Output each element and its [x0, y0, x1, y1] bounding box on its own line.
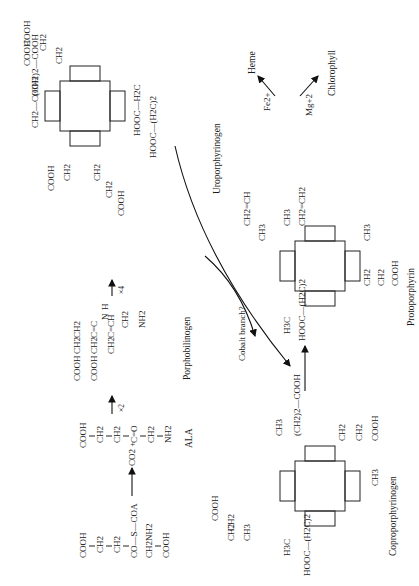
- svg-text:COOH: COOH: [78, 422, 88, 448]
- co2-label: CO2 +: [127, 442, 137, 466]
- svg-text:COOH: COOH: [390, 260, 400, 286]
- svg-text:CH2: CH2: [104, 181, 114, 198]
- succinyl-coa: COOH CH2 CH2 CO—S—COA CH2NH2 COOH: [78, 503, 171, 558]
- pathway-diagram: COOH CH2 CH2 CO—S—COA CH2NH2 COOH CO2 + …: [0, 0, 419, 586]
- svg-text:CH2: CH2: [95, 536, 105, 553]
- arrow-uro-to-copro: [175, 146, 290, 366]
- svg-text:CH2: CH2: [92, 164, 102, 181]
- svg-text:COOH: COOH: [22, 40, 32, 66]
- svg-text:COOH: COOH: [78, 532, 88, 558]
- svg-text:CH2: CH2: [112, 426, 122, 443]
- svg-text:CH2: CH2: [106, 337, 116, 354]
- svg-text:COOH: COOH: [370, 415, 380, 441]
- svg-text:COOH: COOH: [46, 165, 56, 191]
- svg-text:CH2: CH2: [95, 426, 105, 443]
- svg-text:NH2: NH2: [163, 426, 173, 444]
- coproporphyrinogen-name: Coproporphyrinogen: [388, 476, 398, 556]
- svg-text:CH2: CH2: [146, 426, 156, 443]
- cobalt-branch-label: Cobalt branch?: [237, 306, 247, 361]
- svg-text:CH2: CH2: [354, 424, 364, 441]
- svg-text:CH2: CH2: [72, 321, 82, 338]
- svg-text:HOOC—(H2C)2: HOOC—(H2C)2: [297, 279, 307, 341]
- svg-text:×2: ×2: [117, 404, 126, 412]
- svg-text:CH2: CH2: [89, 337, 99, 354]
- protoporphyrin: CH3 CH2=CH2 H3C HOOC—(H2C)2 CH2=CH CH3 C…: [242, 187, 416, 341]
- svg-text:CH2: CH2: [62, 164, 72, 181]
- svg-text:CO—S—COA: CO—S—COA: [129, 503, 139, 558]
- protoporphyrin-name: Protoporphyrin: [406, 268, 416, 326]
- svg-text:Mg+2: Mg+2: [304, 94, 314, 116]
- svg-text:CH2NH2: CH2NH2: [144, 523, 154, 558]
- coproporphyrinogen: CH3 (CH2)2—COOH H3C HOOC—(H2C)2 CH3 CH2 …: [210, 374, 398, 576]
- svg-text:CH3: CH3: [242, 523, 252, 541]
- ala-name: ALA: [184, 428, 194, 448]
- porphobilinogen: COOH COOH CH2 CH2 CH2 CH2 C=CH C=C N H C…: [72, 303, 192, 381]
- svg-text:CH3: CH3: [362, 223, 372, 241]
- svg-text:CH2=CH2: CH2=CH2: [297, 187, 307, 226]
- svg-text:C=C: C=C: [89, 321, 99, 338]
- svg-text:CH3: CH3: [282, 208, 292, 226]
- svg-text:CH2: CH2: [337, 424, 347, 441]
- uroporphyrinogen: CH2—COOH (CH2)2—COOH HOOC—H2C HOOC—(H2C)…: [22, 20, 222, 216]
- svg-text:CH2: CH2: [54, 47, 64, 64]
- svg-text:(CH2)2—COOH: (CH2)2—COOH: [292, 374, 302, 436]
- svg-text:HOOC—(H2C)2: HOOC—(H2C)2: [302, 514, 312, 576]
- heme-chlorophyll-branch: Fe2+ Heme Mg+2 Chlorophyll: [247, 50, 337, 116]
- porphobilinogen-name: Porphobilinogen: [182, 316, 192, 380]
- svg-text:×4: ×4: [117, 286, 126, 294]
- arrow-to-chlorophyll: [300, 76, 318, 96]
- svg-text:CH2=CH: CH2=CH: [242, 191, 252, 226]
- svg-text:H: H: [100, 303, 110, 310]
- svg-text:NH2: NH2: [137, 311, 147, 329]
- svg-text:CH2: CH2: [38, 34, 48, 51]
- svg-text:CH2: CH2: [362, 269, 372, 286]
- svg-text:CH3: CH3: [274, 418, 284, 436]
- svg-text:COOH: COOH: [161, 532, 171, 558]
- svg-text:COOH: COOH: [89, 355, 99, 381]
- chlorophyll-name: Chlorophyll: [327, 50, 337, 96]
- svg-text:H3C: H3C: [282, 539, 292, 556]
- svg-text:HOOC—(H2C)2: HOOC—(H2C)2: [148, 96, 158, 158]
- uroporphyrinogen-name: Uroporphyrinogen: [212, 123, 222, 194]
- svg-text:CH3: CH3: [370, 468, 380, 486]
- svg-text:CH2: CH2: [226, 514, 236, 531]
- svg-text:CH2: CH2: [72, 337, 82, 354]
- arrow-cobalt-branch: [205, 256, 255, 336]
- heme-name: Heme: [247, 51, 257, 74]
- svg-text:N: N: [100, 313, 110, 320]
- svg-text:CH2: CH2: [120, 311, 130, 328]
- svg-text:C=O: C=O: [129, 425, 139, 443]
- svg-text:CH2: CH2: [112, 536, 122, 553]
- diagram-canvas: COOH CH2 CH2 CO—S—COA CH2NH2 COOH CO2 + …: [0, 0, 419, 586]
- svg-text:CH3: CH3: [257, 223, 267, 241]
- svg-text:CH2: CH2: [376, 269, 386, 286]
- svg-text:COOH: COOH: [72, 355, 82, 381]
- svg-text:COOH: COOH: [210, 495, 220, 521]
- svg-text:H3C: H3C: [282, 317, 292, 334]
- svg-text:COOH: COOH: [116, 190, 126, 216]
- svg-text:HOOC—H2C: HOOC—H2C: [132, 84, 142, 136]
- svg-text:Fe2+: Fe2+: [262, 92, 272, 111]
